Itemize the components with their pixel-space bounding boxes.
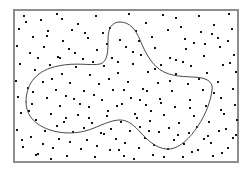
data-point — [73, 98, 75, 100]
data-point — [52, 147, 54, 149]
data-point — [233, 54, 235, 56]
data-point — [32, 91, 34, 93]
data-point — [32, 36, 34, 38]
data-point — [219, 46, 221, 48]
data-point — [58, 138, 60, 140]
data-point — [198, 15, 200, 17]
data-point — [150, 110, 152, 112]
data-point — [227, 40, 229, 42]
data-point — [74, 52, 76, 54]
data-point — [94, 156, 96, 158]
data-point — [229, 62, 231, 64]
data-point — [175, 17, 177, 19]
data-point — [213, 92, 215, 94]
data-point — [207, 135, 209, 137]
data-point — [189, 99, 191, 101]
data-point — [21, 139, 23, 141]
data-point — [31, 103, 33, 105]
data-point — [149, 120, 151, 122]
data-point — [175, 73, 177, 75]
data-point — [163, 114, 165, 116]
data-point — [119, 39, 121, 41]
data-point — [121, 103, 123, 105]
data-point — [146, 90, 148, 92]
data-point — [86, 139, 88, 141]
data-point — [42, 81, 44, 83]
data-point — [44, 130, 46, 132]
data-point — [77, 114, 79, 116]
data-point — [109, 149, 111, 151]
data-point — [59, 105, 61, 107]
data-point — [68, 48, 70, 50]
data-point — [211, 33, 213, 35]
data-point — [77, 23, 79, 25]
data-point — [87, 37, 89, 39]
data-point — [93, 94, 95, 96]
data-point — [59, 57, 61, 59]
data-point — [57, 56, 59, 58]
data-point — [111, 57, 113, 59]
data-point — [108, 78, 110, 80]
data-point — [231, 28, 233, 30]
data-point — [152, 154, 154, 156]
data-point — [16, 129, 18, 131]
data-point — [37, 57, 39, 59]
data-point — [100, 132, 102, 134]
data-point — [91, 122, 93, 124]
data-point — [37, 153, 39, 155]
data-point — [223, 113, 225, 115]
data-point — [66, 155, 68, 157]
data-point — [89, 74, 91, 76]
data-point — [88, 117, 90, 119]
data-point — [71, 29, 73, 31]
data-point — [203, 138, 205, 140]
data-point — [47, 30, 49, 32]
data-point — [160, 102, 162, 104]
data-point — [23, 15, 25, 17]
data-point — [169, 80, 171, 82]
data-point — [129, 130, 131, 132]
data-point — [202, 89, 204, 91]
data-point — [103, 65, 105, 67]
data-point — [117, 61, 119, 63]
data-point — [134, 113, 136, 115]
data-point — [79, 103, 81, 105]
data-point — [92, 61, 94, 63]
data-point — [18, 28, 20, 30]
data-point — [20, 112, 22, 114]
data-point — [116, 105, 118, 107]
data-point — [30, 136, 32, 138]
data-point — [34, 69, 36, 71]
data-point — [29, 52, 31, 54]
data-point — [56, 13, 58, 15]
data-point — [210, 142, 212, 144]
data-point — [193, 115, 195, 117]
data-point — [145, 22, 147, 24]
data-point — [25, 21, 27, 23]
data-point — [225, 128, 227, 130]
data-point — [167, 29, 169, 31]
data-point — [50, 158, 52, 160]
data-point — [160, 64, 162, 66]
data-point — [142, 88, 144, 90]
data-point — [19, 63, 21, 65]
data-point — [101, 99, 103, 101]
data-point — [235, 71, 237, 73]
data-point — [180, 26, 182, 28]
data-point — [148, 130, 150, 132]
data-point — [218, 130, 220, 132]
data-point — [175, 59, 177, 61]
data-point — [235, 134, 237, 136]
data-point — [197, 149, 199, 151]
data-point — [154, 68, 156, 70]
data-point — [96, 49, 98, 51]
data-point — [35, 119, 37, 121]
data-point — [65, 95, 67, 97]
data-point — [212, 155, 214, 157]
data-point — [63, 121, 65, 123]
data-point — [65, 117, 67, 119]
data-point — [220, 97, 222, 99]
data-point — [189, 107, 191, 109]
data-point — [106, 115, 108, 117]
data-point — [162, 14, 164, 16]
